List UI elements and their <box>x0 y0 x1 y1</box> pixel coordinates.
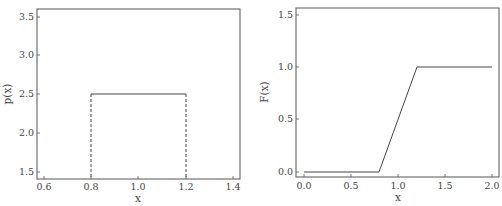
right-xtick-label: 1.0 <box>390 180 405 191</box>
figure: 0.6 0.8 1.0 1.2 1.4 1.5 2.0 2.5 3.0 3.5 … <box>0 0 502 206</box>
left-xtick-label: 1.0 <box>130 181 145 192</box>
right-ytick-label: 1.5 <box>278 9 293 20</box>
right-plot-frame <box>296 8 499 177</box>
right-xtick-label: 0.0 <box>296 180 311 191</box>
left-ytick-label: 2.0 <box>19 127 34 138</box>
left-ytick-label: 2.5 <box>19 88 34 99</box>
left-xtick-label: 0.6 <box>36 181 51 192</box>
right-ytick-label: 0.0 <box>278 166 293 177</box>
cdf-line <box>304 67 492 172</box>
right-y-axis-label: F(x) <box>258 81 270 102</box>
left-ytick-label: 1.5 <box>19 166 34 177</box>
left-xtick-label: 0.8 <box>83 181 98 192</box>
left-y-axis-label: p(x) <box>1 84 13 105</box>
left-xtick-label: 1.4 <box>225 181 240 192</box>
right-xtick-label: 2.0 <box>484 180 499 191</box>
right-x-axis-label: x <box>395 191 401 203</box>
left-ytick-label: 3.5 <box>19 11 34 22</box>
right-xtick-label: 0.5 <box>343 180 358 191</box>
left-xtick-label: 1.2 <box>178 181 193 192</box>
right-ytick-label: 0.5 <box>278 113 293 124</box>
right-ytick-label: 1.0 <box>278 61 293 72</box>
right-xtick-label: 1.5 <box>437 180 452 191</box>
left-ytick-label: 3.0 <box>19 49 34 60</box>
left-x-axis-label: x <box>135 192 141 204</box>
left-plot-pdf: 0.6 0.8 1.0 1.2 1.4 1.5 2.0 2.5 3.0 3.5 … <box>1 9 241 204</box>
right-plot-cdf: 0.0 0.5 1.0 1.5 2.0 0.0 0.5 1.0 1.5 x F(… <box>258 8 500 203</box>
